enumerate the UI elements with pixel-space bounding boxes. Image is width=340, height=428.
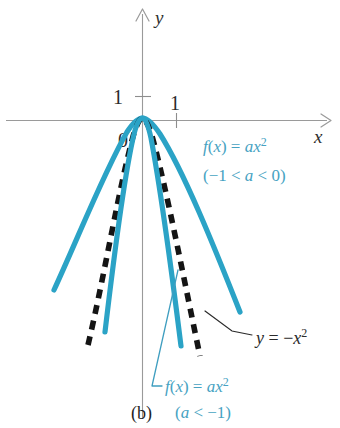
leader-line-dashed-curve [205, 311, 252, 335]
annotation-shallow-parabola: f(x) = ax2 (−1 < a < 0) [203, 135, 286, 185]
y-axis-label: y [153, 7, 164, 28]
x-axis-label: x [313, 126, 323, 147]
label-dashed-equation: y = −x2 [254, 326, 307, 348]
parabola-figure: y x 1 1 0 f(x) = ax2 (−1 < a < 0) y = −x… [0, 0, 340, 428]
label-shallow-equation: f(x) = ax2 [203, 135, 267, 156]
x-tick-label-1: 1 [170, 92, 180, 114]
figure-svg: y x 1 1 0 f(x) = ax2 (−1 < a < 0) y = −x… [0, 0, 340, 428]
label-steep-range: (a < −1) [175, 403, 231, 422]
annotation-steep-parabola: f(x) = ax2 (a < −1) [152, 270, 231, 422]
label-shallow-range: (−1 < a < 0) [203, 166, 286, 185]
figure-caption: (b) [131, 403, 152, 424]
y-tick-label-1: 1 [113, 86, 123, 108]
axes-group [6, 9, 331, 418]
annotation-dashed-parabola: y = −x2 [205, 311, 307, 348]
leader-line-steep-curve [152, 270, 178, 386]
label-steep-equation: f(x) = ax2 [165, 375, 229, 396]
